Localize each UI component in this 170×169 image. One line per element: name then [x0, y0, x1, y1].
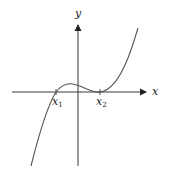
y-axis-label: y [74, 7, 82, 20]
root-label-x1: x1 [52, 95, 63, 109]
root-label-x2-sub: 2 [102, 101, 106, 109]
x-axis-label: x [152, 85, 159, 98]
cubic-curve [31, 28, 138, 166]
root-label-x1-sub: 1 [58, 101, 62, 109]
root-label-x2: x2 [96, 95, 107, 109]
cubic-graph: y x x1 x2 [0, 0, 170, 169]
